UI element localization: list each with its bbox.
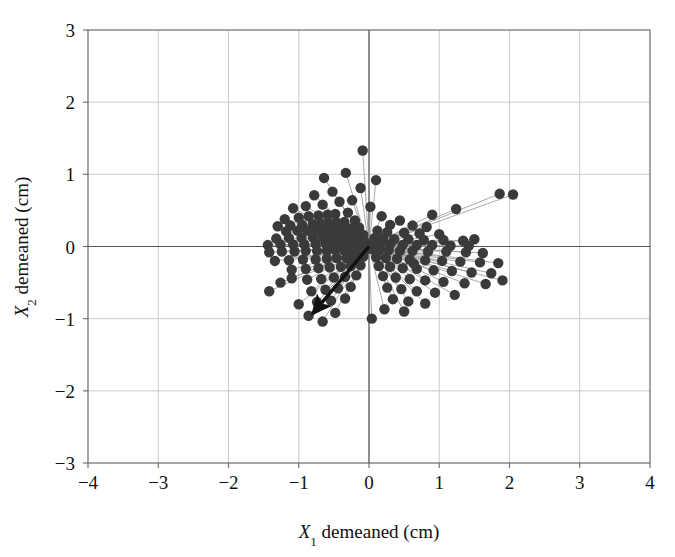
data-point (287, 273, 297, 283)
data-point (508, 189, 518, 199)
data-point (459, 278, 469, 288)
data-point (309, 190, 319, 200)
y-tick-label: −1 (55, 309, 75, 330)
data-point (379, 304, 389, 314)
y-tick-label: 1 (66, 164, 76, 185)
data-point (277, 246, 287, 256)
data-point (486, 268, 496, 278)
data-point (420, 298, 430, 308)
data-point (284, 255, 294, 265)
y-tick-label: −3 (55, 453, 75, 474)
data-point (374, 261, 384, 271)
y-tick-label: 0 (66, 237, 76, 258)
data-point (312, 246, 322, 256)
data-point (289, 246, 299, 256)
data-point (340, 293, 350, 303)
data-point (451, 204, 461, 214)
data-point (430, 287, 440, 297)
x-tick-label: −1 (289, 472, 309, 493)
data-point (493, 258, 503, 268)
data-point (294, 299, 304, 309)
y-tick-label: −2 (55, 381, 75, 402)
data-point (427, 210, 437, 220)
data-point (455, 256, 465, 266)
data-point (367, 313, 377, 323)
data-point (346, 282, 356, 292)
data-point (420, 275, 430, 285)
data-point (466, 267, 476, 277)
data-point (428, 265, 438, 275)
data-point (494, 189, 504, 199)
data-point (334, 197, 344, 207)
data-point (347, 195, 357, 205)
data-point (327, 186, 337, 196)
data-point (329, 272, 339, 282)
data-point (450, 290, 460, 300)
data-point (351, 270, 361, 280)
data-point (357, 145, 367, 155)
y-tick-label: 2 (66, 92, 76, 113)
data-point (316, 274, 326, 284)
data-point (298, 254, 308, 264)
data-point (365, 202, 375, 212)
data-point (420, 255, 430, 265)
data-point (264, 247, 274, 257)
x-tick-label: 4 (645, 472, 655, 493)
x-tick-label: 2 (505, 472, 515, 493)
data-point (270, 256, 280, 266)
data-point (395, 215, 405, 225)
x-tick-label: 3 (575, 472, 585, 493)
data-point (388, 294, 398, 304)
data-point (324, 262, 334, 272)
data-point (264, 286, 274, 296)
data-point (478, 248, 488, 258)
x-tick-label: 1 (435, 472, 445, 493)
data-point (376, 211, 386, 221)
data-point (378, 271, 388, 281)
data-point (403, 296, 413, 306)
data-point (301, 201, 311, 211)
data-point (409, 259, 419, 269)
data-point (341, 168, 351, 178)
data-point (301, 264, 311, 274)
data-point (412, 286, 422, 296)
x-tick-label: −2 (218, 472, 238, 493)
data-point (497, 275, 507, 285)
data-point (317, 316, 327, 326)
plot-svg: −4−3−2−101234 −3−2−10123 X1 demeaned (cm… (0, 0, 675, 557)
x-tick-label: 0 (364, 472, 374, 493)
data-point (385, 262, 395, 272)
data-point (475, 257, 485, 267)
x-tick-label: −4 (78, 472, 99, 493)
data-point (343, 207, 353, 217)
data-point (390, 272, 400, 282)
data-point (398, 263, 408, 273)
data-point (438, 277, 448, 287)
data-point (447, 266, 457, 276)
data-point (461, 247, 471, 257)
data-point (392, 254, 402, 264)
y-tick-label: 3 (66, 20, 76, 41)
data-point (288, 203, 298, 213)
data-point (275, 277, 285, 287)
data-point (336, 262, 346, 272)
data-point (407, 220, 417, 230)
x-tick-label: −3 (148, 472, 168, 493)
data-point (469, 234, 479, 244)
data-point (405, 274, 415, 284)
data-point (382, 282, 392, 292)
data-point (437, 256, 447, 266)
data-point (319, 173, 329, 183)
data-point (355, 183, 365, 193)
scatter-plot-figure: −4−3−2−101234 −3−2−10123 X1 demeaned (cm… (0, 0, 675, 557)
data-point (371, 175, 381, 185)
data-point (399, 306, 409, 316)
data-point (306, 286, 316, 296)
data-point (330, 308, 340, 318)
data-point (480, 279, 490, 289)
data-point (313, 263, 323, 273)
data-point (441, 246, 451, 256)
data-point (302, 274, 312, 284)
data-point (396, 284, 406, 294)
data-point (317, 199, 327, 209)
